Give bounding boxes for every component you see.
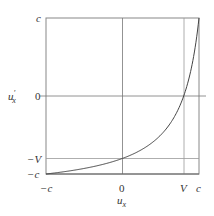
x-tick-negc: −c	[40, 182, 52, 194]
y-tick-negc: −c	[27, 168, 39, 180]
x-tick-c: c	[196, 182, 201, 194]
x-axis-label: ux	[117, 194, 127, 209]
y-tick-0: 0	[35, 90, 41, 102]
velocity-addition-chart: c 0 −V −c u′x −c 0 V c ux	[0, 0, 214, 216]
x-tick-0: 0	[119, 182, 125, 194]
y-tick-c: c	[36, 12, 41, 24]
y-tick-negV: −V	[27, 153, 42, 165]
x-tick-V: V	[180, 182, 188, 194]
y-axis-label: u′x	[8, 89, 16, 105]
